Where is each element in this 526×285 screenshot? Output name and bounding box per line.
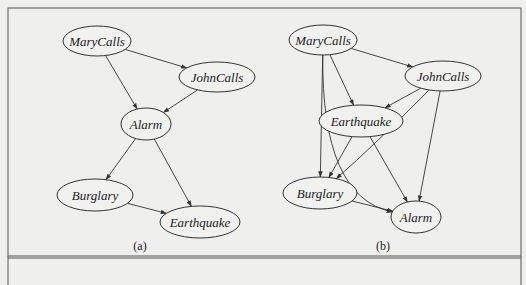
- edge-marycalls-to-alarm: [106, 56, 138, 110]
- panel-b-network: MaryCallsJohnCallsEarthquakeBurglaryAlar…: [283, 25, 481, 233]
- node-marycalls: MaryCalls: [63, 26, 131, 56]
- node-label: JohnCalls: [191, 70, 244, 85]
- panel-b-caption: (b): [376, 239, 390, 253]
- node-label: MaryCalls: [68, 34, 125, 49]
- node-label: JohnCalls: [417, 69, 470, 84]
- node-label: Alarm: [129, 117, 163, 132]
- node-alarm: Alarm: [121, 108, 171, 140]
- edge-marycalls-to-earthquake: [330, 55, 354, 106]
- edge-marycalls-to-johncalls: [351, 48, 413, 66]
- node-earthquake: Earthquake: [160, 206, 240, 238]
- node-burglary: Burglary: [57, 179, 133, 211]
- node-marycalls: MaryCalls: [289, 25, 357, 55]
- edge-burglary-to-earthquake: [127, 203, 166, 213]
- edge-johncalls-to-alarm: [163, 90, 197, 113]
- node-label: Earthquake: [169, 215, 231, 230]
- edge-earthquake-to-burglary: [329, 137, 352, 178]
- node-burglary: Burglary: [283, 177, 357, 209]
- node-johncalls: JohnCalls: [405, 61, 481, 91]
- edge-earthquake-to-alarm: [370, 137, 407, 202]
- edge-johncalls-to-alarm: [419, 91, 440, 201]
- node-johncalls: JohnCalls: [179, 62, 255, 92]
- edge-alarm-to-earthquake: [154, 139, 191, 206]
- node-label: Burglary: [297, 186, 344, 201]
- node-label: Burglary: [72, 188, 119, 203]
- node-label: MaryCalls: [294, 33, 351, 48]
- edge-burglary-to-alarm: [352, 201, 393, 211]
- edge-johncalls-to-earthquake: [385, 88, 421, 108]
- edge-alarm-to-burglary: [106, 139, 136, 180]
- edge-marycalls-to-johncalls: [125, 49, 187, 67]
- panel-a-caption: (a): [133, 239, 146, 253]
- node-earthquake: Earthquake: [319, 105, 403, 137]
- node-label: Alarm: [399, 210, 433, 225]
- bayes-net-figure: MaryCallsJohnCallsAlarmBurglaryEarthquak…: [0, 0, 526, 285]
- figure-canvas: MaryCallsJohnCallsAlarmBurglaryEarthquak…: [0, 0, 526, 285]
- node-label: Earthquake: [330, 114, 392, 129]
- panel-a-network: MaryCallsJohnCallsAlarmBurglaryEarthquak…: [57, 26, 255, 238]
- node-alarm: Alarm: [391, 201, 441, 233]
